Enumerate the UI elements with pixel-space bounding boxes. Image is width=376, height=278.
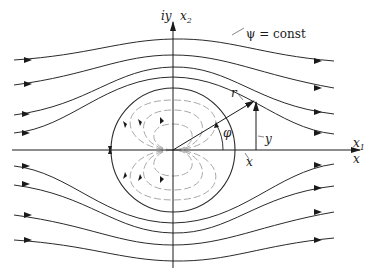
phi-label: φ	[223, 126, 232, 140]
x2-axis-label: x2	[180, 9, 192, 25]
streamline-arrows-lower	[22, 162, 322, 243]
real-axis-label: x	[353, 152, 360, 166]
y-leader	[258, 136, 264, 137]
radius-vector	[173, 101, 254, 150]
psi-leader	[232, 28, 244, 35]
imag-axis-label: iy	[161, 9, 172, 23]
psi-const-label: ψ = const	[246, 27, 306, 41]
streamlines-upper	[14, 39, 334, 134]
phi-arc	[216, 124, 223, 150]
x1-axis-label: x1	[353, 136, 365, 152]
flow-diagram: iy x2 ψ = const r φ y x x1 x	[0, 0, 376, 278]
y-label: y	[264, 132, 272, 146]
x-label: x	[246, 155, 253, 169]
